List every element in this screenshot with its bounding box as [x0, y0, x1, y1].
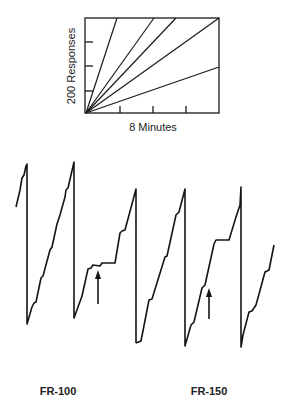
x-axis-label: 8 Minutes	[129, 121, 177, 133]
record-fr100	[16, 162, 136, 343]
slope-line-3	[86, 18, 176, 113]
arrow-up-icon	[95, 270, 101, 279]
pause-arrow-fr100	[95, 270, 101, 304]
arrow-up-icon	[206, 288, 212, 297]
slope-line-4	[86, 18, 219, 113]
slope-line-2	[86, 18, 154, 113]
cumulative-records	[16, 162, 274, 347]
label-fr150: FR-150	[191, 385, 228, 397]
figure: 8 Minutes 200 Responses FR-100 FR-150	[0, 0, 284, 419]
label-fr100: FR-100	[40, 385, 77, 397]
record-fr150	[136, 187, 274, 347]
inset-key: 8 Minutes 200 Responses	[65, 18, 219, 133]
pause-arrow-fr150	[206, 288, 212, 319]
y-axis-label: 200 Responses	[65, 27, 77, 104]
